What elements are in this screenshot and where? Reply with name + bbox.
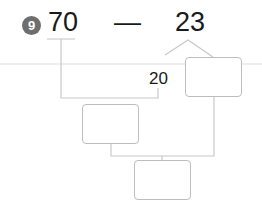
- subtrahend: 23: [175, 9, 205, 36]
- answer-box-intermediate[interactable]: [82, 104, 139, 144]
- split-part-value: 20: [149, 70, 168, 87]
- answer-box-final[interactable]: [134, 160, 191, 200]
- minuend: 70: [48, 9, 78, 36]
- minus-sign: —: [114, 9, 141, 36]
- answer-box-split[interactable]: [185, 57, 242, 97]
- problem-number-badge: 9: [22, 16, 41, 35]
- math-worksheet: 9 70 — 23 20: [0, 0, 262, 216]
